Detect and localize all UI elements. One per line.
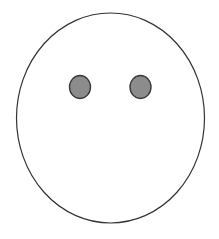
face-outline <box>17 13 205 223</box>
left-eye <box>70 76 91 99</box>
right-eye <box>130 76 151 99</box>
face-drawing <box>0 0 219 239</box>
